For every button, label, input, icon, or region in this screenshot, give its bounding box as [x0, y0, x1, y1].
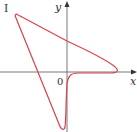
y-axis-arrow-icon: [65, 1, 70, 7]
y-axis: [65, 1, 70, 132]
parametric-curve-figure: I y x 0: [0, 0, 137, 132]
x-axis-arrow-icon: [131, 70, 137, 75]
y-axis-label: y: [54, 1, 62, 14]
panel-label: I: [4, 2, 8, 15]
x-axis-label: x: [130, 75, 137, 88]
origin-label: 0: [57, 76, 63, 87]
